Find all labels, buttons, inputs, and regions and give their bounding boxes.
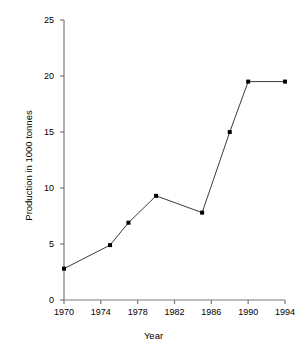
x-axis-title: Year bbox=[0, 330, 307, 341]
x-tick-label: 1970 bbox=[47, 307, 81, 317]
data-series-line bbox=[64, 82, 285, 269]
x-tick-label: 1986 bbox=[194, 307, 228, 317]
data-point-marker bbox=[154, 194, 158, 198]
data-point-marker bbox=[200, 211, 204, 215]
data-point-marker bbox=[246, 80, 250, 84]
data-point-marker bbox=[108, 243, 112, 247]
line-chart-figure: Production in 1000 tonnes Year 051015202… bbox=[0, 0, 307, 357]
x-tick-label: 1974 bbox=[84, 307, 118, 317]
y-tick-label: 10 bbox=[38, 183, 54, 193]
data-point-marker bbox=[228, 130, 232, 134]
y-tick-label: 0 bbox=[38, 295, 54, 305]
y-axis-title: Production in 1000 tonnes bbox=[23, 86, 34, 246]
x-tick-label: 1982 bbox=[158, 307, 192, 317]
x-tick-label: 1990 bbox=[231, 307, 265, 317]
x-tick-label: 1994 bbox=[268, 307, 302, 317]
y-tick-label: 25 bbox=[38, 15, 54, 25]
y-tick-label: 15 bbox=[38, 127, 54, 137]
y-tick-label: 5 bbox=[38, 239, 54, 249]
data-point-marker bbox=[126, 221, 130, 225]
y-tick-label: 20 bbox=[38, 71, 54, 81]
x-tick-label: 1978 bbox=[121, 307, 155, 317]
data-point-marker bbox=[283, 80, 287, 84]
data-point-marker bbox=[62, 267, 66, 271]
